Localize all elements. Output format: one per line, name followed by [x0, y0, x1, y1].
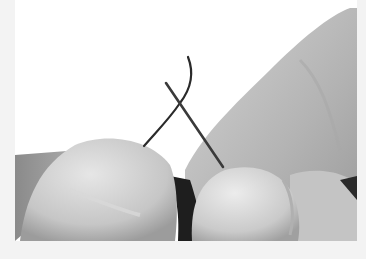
needle-threading-illustration	[15, 0, 357, 241]
image-border	[0, 0, 366, 259]
photo	[15, 0, 357, 241]
